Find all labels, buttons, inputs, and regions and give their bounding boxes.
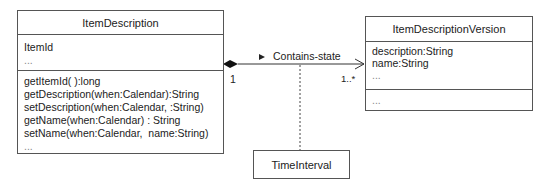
association-name: Contains-state (273, 50, 341, 62)
attributes-section: ItemId ... (18, 35, 223, 71)
attribute: ItemId (24, 41, 217, 54)
direction-triangle-icon (259, 54, 265, 60)
source-multiplicity: 1 (230, 73, 236, 85)
class-item-description-version[interactable]: ItemDescriptionVersion description:Strin… (365, 16, 533, 111)
method-ellipsis: ... (372, 94, 526, 107)
composition-diamond-icon (223, 60, 238, 68)
method: getName(when:Calendar) : String (24, 114, 217, 127)
method: getItemId( ):long (24, 75, 217, 88)
method: getDescription(when:Calendar):String (24, 88, 217, 101)
attribute: description:String (372, 45, 526, 57)
methods-section: ... (366, 90, 532, 110)
class-name: ItemDescription (18, 11, 223, 35)
class-name: TimeInterval (254, 151, 349, 178)
method: setDescription(when:Calendar, :String) (24, 101, 217, 114)
method-ellipsis: ... (24, 140, 217, 153)
attribute-ellipsis: ... (372, 69, 526, 81)
target-multiplicity: 1..* (341, 73, 355, 84)
method: setName(when:Calendar, name:String) (24, 127, 217, 140)
class-name: ItemDescriptionVersion (366, 17, 532, 42)
attribute: name:String (372, 57, 526, 69)
methods-section: getItemId( ):long getDescription(when:Ca… (18, 71, 223, 156)
attribute-ellipsis: ... (24, 54, 217, 67)
class-item-description[interactable]: ItemDescription ItemId ... getItemId( ):… (17, 10, 224, 154)
class-time-interval[interactable]: TimeInterval (253, 150, 350, 179)
attributes-section: description:String name:String ... (366, 42, 532, 90)
